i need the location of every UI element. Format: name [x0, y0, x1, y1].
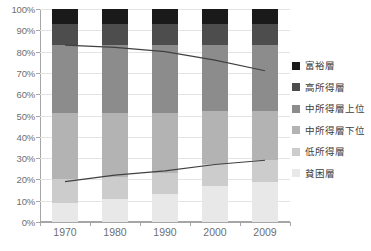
legend-label: 低所得層 — [305, 147, 345, 157]
stacked-bar-chart: 100%90%80%70%60%50%40%30%20%10%0% 197019… — [0, 0, 371, 251]
y-tick-label: 50% — [0, 110, 35, 121]
y-tick-label: 90% — [0, 25, 35, 36]
legend-swatch-icon — [292, 169, 300, 177]
y-tick-mark — [36, 94, 40, 95]
y-tick-label: 40% — [0, 131, 35, 142]
bar-segment[interactable] — [102, 45, 128, 113]
x-tick-label: 2009 — [253, 226, 276, 238]
y-tick-mark — [36, 116, 40, 117]
bar-segment[interactable] — [52, 9, 78, 24]
legend-label: 中所得層下位 — [305, 126, 365, 136]
y-tick-mark — [36, 137, 40, 138]
plot-area — [40, 9, 290, 222]
bar-group[interactable] — [102, 9, 128, 222]
x-tick-label: 1980 — [103, 226, 126, 238]
bar-segment[interactable] — [152, 9, 178, 24]
legend-swatch-icon — [292, 148, 300, 156]
legend-item[interactable]: 中所得層上位 — [292, 98, 370, 120]
legend-item[interactable]: 貧困層 — [292, 163, 370, 185]
legend-item[interactable]: 低所得層 — [292, 141, 370, 163]
x-tick-mark — [40, 222, 41, 226]
bar-segment[interactable] — [52, 24, 78, 45]
y-tick-mark — [36, 52, 40, 53]
bar-group[interactable] — [52, 9, 78, 222]
bar-segment[interactable] — [52, 113, 78, 179]
gridline — [40, 222, 290, 223]
bar-segment[interactable] — [102, 24, 128, 45]
x-tick-label: 1990 — [153, 226, 176, 238]
legend-label: 高所得層 — [305, 83, 345, 93]
y-tick-label: 10% — [0, 195, 35, 206]
x-tick-mark — [190, 222, 191, 226]
bar-segment[interactable] — [252, 160, 278, 181]
bar-segment[interactable] — [152, 24, 178, 45]
bar-segment[interactable] — [152, 113, 178, 173]
bar-segment[interactable] — [152, 194, 178, 222]
y-tick-label: 100% — [0, 4, 35, 15]
bar-segment[interactable] — [52, 179, 78, 202]
legend-swatch-icon — [292, 126, 300, 134]
y-tick-mark — [36, 201, 40, 202]
y-tick-mark — [36, 158, 40, 159]
bar-segment[interactable] — [202, 111, 228, 164]
bar-group[interactable] — [152, 9, 178, 222]
legend-label: 貧困層 — [305, 169, 335, 179]
bar-segment[interactable] — [252, 9, 278, 24]
bar-segment[interactable] — [202, 24, 228, 45]
legend-item[interactable]: 富裕層 — [292, 55, 370, 77]
y-tick-mark — [36, 73, 40, 74]
bar-group[interactable] — [202, 9, 228, 222]
bar-segment[interactable] — [152, 173, 178, 194]
bar-segment[interactable] — [102, 9, 128, 24]
legend-item[interactable]: 高所得層 — [292, 77, 370, 99]
y-tick-mark — [36, 30, 40, 31]
legend-item[interactable]: 中所得層下位 — [292, 120, 370, 142]
legend-label: 中所得層上位 — [305, 104, 365, 114]
bar-segment[interactable] — [202, 45, 228, 111]
bar-segment[interactable] — [252, 24, 278, 45]
y-tick-label: 70% — [0, 67, 35, 78]
legend-swatch-icon — [292, 83, 300, 91]
x-tick-mark — [290, 222, 291, 226]
bar-segment[interactable] — [102, 177, 128, 198]
y-tick-label: 30% — [0, 153, 35, 164]
bar-segment[interactable] — [252, 45, 278, 111]
bar-segment[interactable] — [152, 45, 178, 113]
bar-segment[interactable] — [102, 199, 128, 222]
y-tick-mark — [36, 179, 40, 180]
bar-segment[interactable] — [252, 111, 278, 160]
y-tick-mark — [36, 9, 40, 10]
x-tick-mark — [90, 222, 91, 226]
bar-segment[interactable] — [52, 203, 78, 222]
x-tick-mark — [140, 222, 141, 226]
x-tick-label: 2000 — [203, 226, 226, 238]
y-tick-label: 0% — [0, 217, 35, 228]
legend: 富裕層高所得層中所得層上位中所得層下位低所得層貧困層 — [292, 55, 370, 184]
bar-segment[interactable] — [202, 164, 228, 185]
legend-label: 富裕層 — [305, 61, 335, 71]
bar-segment[interactable] — [52, 45, 78, 113]
legend-swatch-icon — [292, 105, 300, 113]
y-tick-label: 80% — [0, 46, 35, 57]
legend-swatch-icon — [292, 62, 300, 70]
x-tick-label: 1970 — [53, 226, 76, 238]
bar-segment[interactable] — [202, 186, 228, 222]
bar-segment[interactable] — [202, 9, 228, 24]
x-tick-mark — [240, 222, 241, 226]
bar-segment[interactable] — [252, 182, 278, 222]
bar-segment[interactable] — [102, 113, 128, 177]
y-tick-label: 60% — [0, 89, 35, 100]
y-tick-label: 20% — [0, 174, 35, 185]
bar-group[interactable] — [252, 9, 278, 222]
